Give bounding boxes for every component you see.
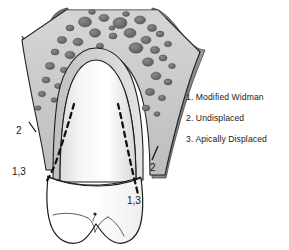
callout-right-widman-apical: 1,3 <box>127 195 141 206</box>
central-pit <box>93 212 96 215</box>
legend-item-modified-widman: 1. Modified Widman <box>186 92 288 102</box>
callout-right-undisplaced: 2 <box>150 162 156 173</box>
legend-item-undisplaced: 2. Undisplaced <box>186 113 288 123</box>
legend-item-apically-displaced: 3. Apically Displaced <box>186 134 288 144</box>
callout-left-widman-apical: 1,3 <box>12 166 26 177</box>
bone-crest-shading <box>66 10 166 18</box>
callout-left-undisplaced: 2 <box>16 125 22 136</box>
legend: 1. Modified Widman 2. Undisplaced 3. Api… <box>186 92 288 155</box>
